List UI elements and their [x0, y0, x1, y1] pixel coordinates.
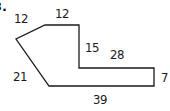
label-inner-horizontal: 28: [110, 48, 124, 61]
label-bottom: 39: [93, 93, 107, 106]
label-top: 12: [55, 7, 69, 20]
polygon-outline: [16, 25, 154, 86]
label-top-left-slant: 12: [14, 12, 28, 25]
label-right: 7: [161, 71, 168, 84]
label-inner-vertical: 15: [85, 41, 99, 54]
label-left-slant: 21: [13, 70, 27, 83]
